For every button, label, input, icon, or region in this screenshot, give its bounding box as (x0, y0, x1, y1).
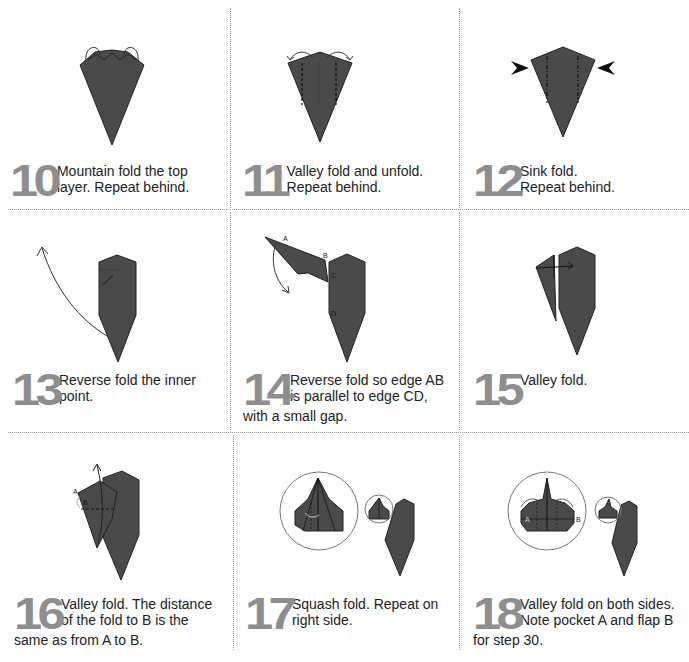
point-label-b: B (323, 252, 328, 259)
step-number: 15 (473, 372, 520, 408)
pocket-label-a: A (525, 516, 530, 523)
point-label-c: C (331, 272, 336, 279)
step-10-caption: 10 Mountain fold the top layer. Repeat b… (10, 163, 225, 199)
step-12-diagram (459, 0, 689, 160)
step-14-caption: 14 Reverse fold so edge AB is parallel t… (243, 372, 458, 424)
step-18-diagram: A B (459, 433, 689, 593)
step-11: 11 Valley fold and unfold. Repeat behind… (230, 0, 459, 209)
step-12: 12 Sink fold. Repeat behind. (459, 0, 689, 209)
step-15-caption: 15 Valley fold. (473, 372, 683, 408)
step-10-diagram (0, 0, 230, 160)
step-18: A B 18 Valley fold on both sides. Note p… (459, 433, 689, 662)
step-number: 13 (12, 372, 59, 408)
point-label-d: D (331, 310, 336, 317)
step-number: 11 (242, 163, 286, 199)
step-13-caption: 13 Reverse fold the inner point. (12, 372, 227, 408)
step-17-diagram (233, 433, 459, 593)
step-16-caption: 16 Valley fold. The distance of the fold… (14, 596, 229, 648)
step-17-caption: 17 Squash fold. Repeat on right side. (245, 596, 457, 632)
step-18-caption: 18 Valley fold on both sides. Note pocke… (473, 596, 689, 648)
step-16-diagram: A B (0, 433, 233, 593)
step-15: 15 Valley fold. (459, 210, 689, 432)
step-13-diagram (0, 210, 230, 370)
step-number: 10 (10, 163, 57, 199)
step-11-diagram (230, 0, 459, 160)
step-14: A B C D 14 Reverse fold so edge AB is pa… (230, 210, 459, 432)
point-label-a: A (73, 488, 78, 495)
step-16: A B 16 Valley fold. The distance of the … (0, 433, 233, 662)
reverse-fold-arrow-icon (42, 248, 107, 336)
step-13: 13 Reverse fold the inner point. (0, 210, 230, 432)
point-label-b: B (83, 499, 88, 506)
step-12-caption: 12 Sink fold. Repeat behind. (473, 163, 683, 199)
step-number: 18 (473, 596, 520, 632)
push-arrow-icon (511, 61, 529, 75)
step-15-diagram (459, 210, 689, 370)
step-number: 17 (245, 596, 292, 632)
step-11-caption: 11 Valley fold and unfold. Repeat behind… (242, 163, 457, 199)
step-10: 10 Mountain fold the top layer. Repeat b… (0, 0, 230, 209)
flap-label-b: B (576, 516, 581, 523)
step-number: 12 (473, 163, 520, 199)
step-17: 17 Squash fold. Repeat on right side. (233, 433, 459, 662)
step-number: 16 (14, 596, 61, 632)
point-label-a: A (283, 235, 288, 242)
push-arrow-icon (597, 61, 615, 75)
step-14-diagram: A B C D (230, 210, 459, 370)
step-number: 14 (243, 372, 290, 408)
